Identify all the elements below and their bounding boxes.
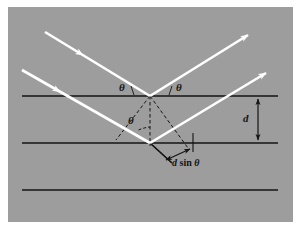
diagram-canvas [0,0,300,230]
bragg-diffraction-figure: θ θ θ d d sin θ [0,0,300,230]
theta-middle-arc [139,127,151,130]
reflected-beam-lower [150,73,266,143]
interplanar-spacing-label: d [243,113,249,124]
construction-lines [116,96,188,148]
path-diff-guide-to-lower-beam [150,143,172,163]
theta-right-tick [169,86,172,95]
incident-beam-lower [22,70,150,143]
theta-label-middle: θ [128,115,134,126]
theta-label-left: θ [119,82,125,93]
incident-beam-upper [45,32,150,96]
xray-beams [22,32,266,143]
path-difference-sin: sin [177,157,194,168]
reflected-beam-upper [150,35,248,96]
path-difference-label: d sin θ [172,158,199,168]
theta-label-right: θ [176,82,182,93]
path-difference-theta: θ [194,157,199,168]
